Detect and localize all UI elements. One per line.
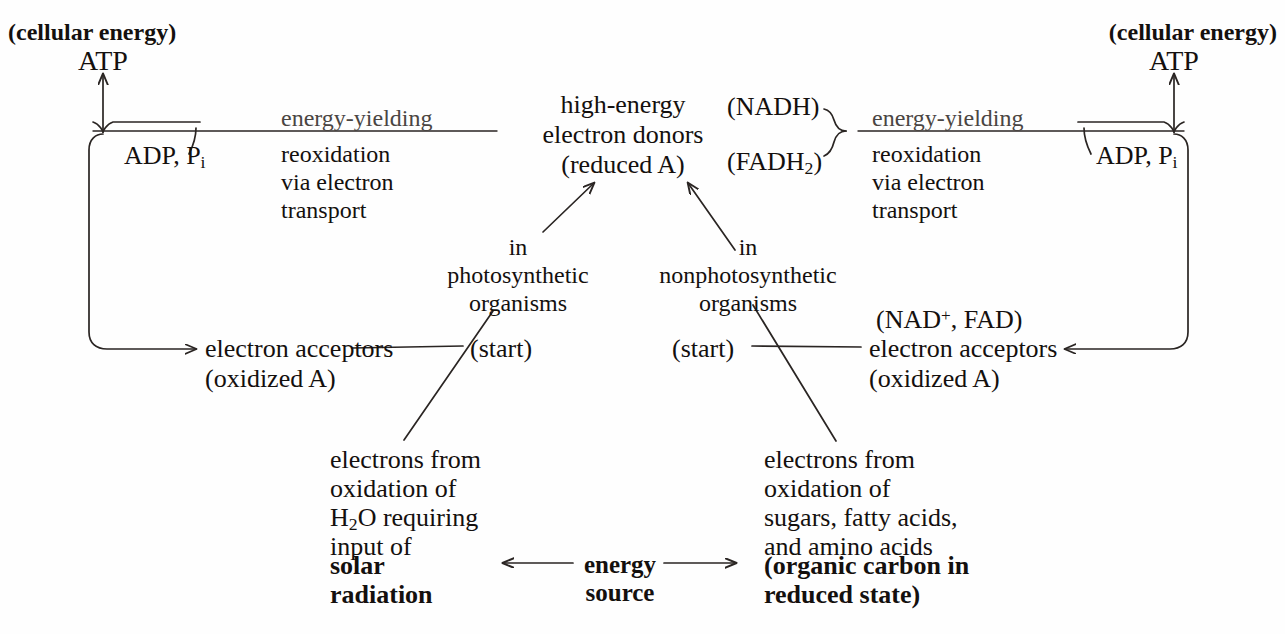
left-reoxidation-line1: reoxidation (281, 140, 390, 168)
left-adp-pi-text: ADP, P (124, 141, 201, 170)
donors-line2: electron donors (513, 120, 733, 151)
right-start-diagonal (753, 305, 836, 441)
left-cellular-energy-label: (cellular energy) (8, 18, 176, 46)
left-energy-yielding-label: energy-yielding (281, 104, 433, 132)
photosynthetic-line2: photosynthetic (425, 261, 611, 289)
right-cofactors-label: (NAD+, FAD) (876, 305, 1022, 336)
right-source-bold-line1: (organic carbon in (764, 551, 969, 582)
left-start-diagonal (404, 311, 493, 440)
left-source-bold-line2: radiation (330, 580, 433, 611)
cofactors-prefix: (NAD (876, 305, 941, 334)
left-start-label: (start) (470, 334, 532, 365)
nonphotosynthetic-line3: organisms (633, 289, 863, 317)
fadh2-suffix: ) (813, 147, 822, 176)
right-acceptors-to-start (752, 346, 861, 347)
right-pi-subscript: i (1173, 152, 1178, 172)
fadh2-prefix: (FADH (727, 147, 805, 176)
fadh2-label: (FADH2) (727, 147, 822, 179)
water-prefix: H (330, 503, 349, 532)
donors-line3: (reduced A) (513, 150, 733, 181)
left-source-line2: oxidation of (330, 474, 456, 505)
right-reoxidation-line3: transport (872, 196, 957, 224)
right-adp-hook (1084, 128, 1091, 154)
right-atp-label: ATP (1129, 44, 1219, 77)
right-energy-yielding-label: energy-yielding (872, 104, 1024, 132)
nadh-label: (NADH) (727, 92, 819, 123)
right-adp-pi-label: ADP, Pi (1096, 141, 1178, 173)
photosynthetic-line1: in (425, 233, 611, 261)
energy-source-line1: energy (545, 550, 695, 580)
left-electron-acceptors-line2: (oxidized A) (205, 364, 336, 395)
water-suffix: O requiring (358, 503, 479, 532)
left-adp-pi-label: ADP, Pi (124, 141, 206, 173)
right-source-line2: oxidation of (764, 474, 890, 505)
left-electron-acceptors-line1: electron acceptors (205, 334, 393, 365)
left-reoxidation-line2: via electron (281, 168, 394, 196)
right-start-label: (start) (672, 334, 734, 365)
right-electron-acceptors-line1: electron acceptors (869, 334, 1057, 365)
water-subscript: 2 (349, 514, 358, 534)
left-pi-subscript: i (201, 152, 206, 172)
right-source-bold-line2: reduced state) (764, 580, 920, 611)
right-reoxidation-line2: via electron (872, 168, 985, 196)
nonphotosynthetic-line1: in (633, 233, 863, 261)
left-source-line3: H2O requiring (330, 503, 478, 535)
donors-line1: high-energy (513, 90, 733, 121)
right-electron-acceptors-line2: (oxidized A) (869, 364, 1000, 395)
left-reoxidation-line3: transport (281, 196, 366, 224)
cofactors-suffix: , FAD) (951, 305, 1023, 334)
photosynthetic-line3: organisms (425, 289, 611, 317)
photosynthetic-to-donors-arrow (543, 183, 594, 232)
energy-source-line2: source (545, 578, 695, 608)
nad-plus-superscript: + (941, 306, 951, 325)
right-adp-pi-text: ADP, P (1096, 141, 1173, 170)
left-source-line1: electrons from (330, 445, 481, 476)
nonphotosynthetic-line2: nonphotosynthetic (633, 261, 863, 289)
right-reoxidation-line1: reoxidation (872, 140, 981, 168)
nadh-fadh2-brace (824, 109, 846, 156)
right-cellular-energy-label: (cellular energy) (1077, 18, 1277, 46)
left-source-bold-line1: solar (330, 551, 385, 582)
right-source-line3: sugars, fatty acids, (764, 503, 958, 534)
right-source-line1: electrons from (764, 445, 915, 476)
left-atp-label: ATP (58, 44, 148, 77)
diagram-canvas: (cellular energy) ATP ADP, Pi energy-yie… (0, 0, 1285, 634)
